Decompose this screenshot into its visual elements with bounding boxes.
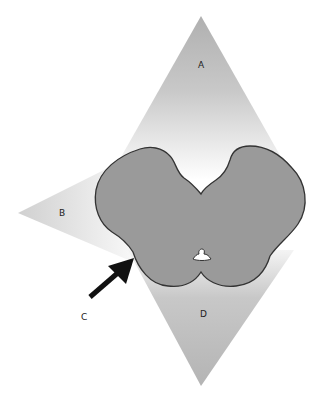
label-b: B	[59, 208, 65, 218]
label-c: C	[81, 312, 87, 322]
label-a: A	[198, 60, 205, 70]
arrow-c	[90, 258, 134, 297]
arrow-shaft	[90, 271, 120, 297]
label-d: D	[200, 309, 207, 319]
diagram-figure: A B C D	[0, 0, 324, 400]
